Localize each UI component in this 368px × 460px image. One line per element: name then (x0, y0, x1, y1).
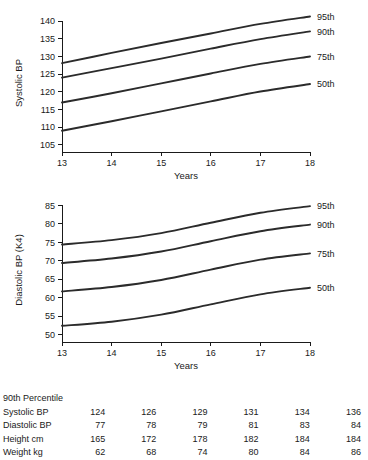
percentile-data-table: 90th Percentile Systolic BP1241261291311… (0, 392, 368, 460)
y-tick-label: 75 (45, 238, 55, 248)
table-cell: 165 (54, 433, 105, 447)
table-cell: 81 (207, 419, 258, 433)
table-cell: 84 (259, 446, 310, 460)
table-cell: 77 (54, 419, 105, 433)
table-cell: 136 (310, 406, 361, 420)
table-cell: 172 (105, 433, 156, 447)
table-title-row: 90th Percentile (3, 392, 361, 406)
y-tick-label: 50 (45, 330, 55, 340)
table-cell: 124 (54, 406, 105, 420)
table-cell: 84 (310, 419, 361, 433)
y-tick-label: 85 (45, 201, 55, 211)
x-tick-label: 15 (156, 158, 166, 168)
table-row-label: Systolic BP (3, 406, 54, 420)
table-cell: 129 (156, 406, 207, 420)
series-label-50th: 50th (317, 79, 335, 89)
y-tick-label: 140 (40, 16, 55, 26)
y-tick-label: 55 (45, 311, 55, 321)
x-tick-label: 17 (255, 348, 265, 358)
table-cell: 126 (105, 406, 156, 420)
percentile-curve-95th (62, 206, 310, 244)
x-tick-label: 14 (107, 158, 117, 168)
diastolic-chart-svg: 5055606570758085131415161718YearsDiastol… (0, 182, 368, 378)
series-label-75th: 75th (317, 52, 335, 62)
table-cell: 62 (54, 446, 105, 460)
table-title: 90th Percentile (3, 392, 361, 406)
x-tick-label: 18 (305, 348, 315, 358)
table-row: Diastolic BP777879818384 (3, 419, 361, 433)
x-tick-label: 16 (206, 158, 216, 168)
y-axis-title: Systolic BP (13, 59, 24, 107)
table-cell: 86 (310, 446, 361, 460)
series-label-95th: 95th (317, 12, 335, 22)
table-row: Systolic BP124126129131134136 (3, 406, 361, 420)
percentile-curve-50th (62, 84, 310, 131)
x-tick-label: 18 (305, 158, 315, 168)
x-tick-label: 17 (255, 158, 265, 168)
table-cell: 184 (310, 433, 361, 447)
x-tick-label: 15 (156, 348, 166, 358)
y-tick-label: 130 (40, 52, 55, 62)
systolic-chart-svg: 105110115120125130135140131415161718Year… (0, 0, 368, 182)
y-tick-label: 120 (40, 87, 55, 97)
table-cell: 68 (105, 446, 156, 460)
table-row-label: Weight kg (3, 446, 54, 460)
y-axis-title: Diastolic BP (K4) (13, 234, 24, 306)
diastolic-bp-chart: 5055606570758085131415161718YearsDiastol… (0, 182, 368, 378)
table-cell: 80 (207, 446, 258, 460)
y-tick-label: 135 (40, 34, 55, 44)
series-label-90th: 90th (317, 220, 335, 230)
table-cell: 178 (156, 433, 207, 447)
series-label-75th: 75th (317, 249, 335, 259)
series-label-95th: 95th (317, 201, 335, 211)
y-tick-label: 105 (40, 140, 55, 150)
x-axis-title: Years (174, 360, 198, 371)
bp-values-table: 90th Percentile Systolic BP1241261291311… (3, 392, 361, 460)
table-row-label: Diastolic BP (3, 419, 54, 433)
y-tick-label: 125 (40, 69, 55, 79)
table-cell: 184 (259, 433, 310, 447)
table-cell: 182 (207, 433, 258, 447)
y-tick-label: 80 (45, 219, 55, 229)
bp-percentile-figure: 105110115120125130135140131415161718Year… (0, 0, 368, 460)
table-body: 90th Percentile Systolic BP1241261291311… (3, 392, 361, 460)
y-tick-label: 65 (45, 274, 55, 284)
x-tick-label: 13 (57, 158, 67, 168)
x-tick-label: 16 (206, 348, 216, 358)
table-row: Height cm165172178182184184 (3, 433, 361, 447)
y-tick-label: 115 (41, 105, 55, 115)
systolic-bp-chart: 105110115120125130135140131415161718Year… (0, 0, 368, 182)
percentile-curve-75th (62, 56, 310, 102)
percentile-curve-50th (62, 288, 310, 326)
x-tick-label: 14 (107, 348, 117, 358)
table-row-label: Height cm (3, 433, 54, 447)
table-cell: 134 (259, 406, 310, 420)
x-tick-label: 13 (57, 348, 67, 358)
y-tick-label: 70 (45, 256, 55, 266)
table-cell: 131 (207, 406, 258, 420)
percentile-curve-95th (62, 16, 310, 63)
table-cell: 79 (156, 419, 207, 433)
y-tick-label: 60 (45, 293, 55, 303)
table-cell: 78 (105, 419, 156, 433)
y-tick-label: 110 (41, 122, 55, 132)
series-label-90th: 90th (317, 27, 335, 37)
table-cell: 74 (156, 446, 207, 460)
table-row: Weight kg626874808486 (3, 446, 361, 460)
series-label-50th: 50th (317, 283, 335, 293)
x-axis-title: Years (174, 170, 198, 181)
table-cell: 83 (259, 419, 310, 433)
